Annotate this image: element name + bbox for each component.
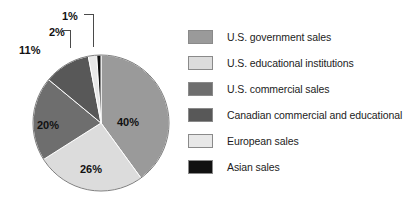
legend-item-asian-sales[interactable]: Asian sales	[188, 154, 414, 180]
callout-leader-elbow-european-sales	[62, 30, 71, 31]
legend-item-us-commercial-sales[interactable]: U.S. commercial sales	[188, 76, 414, 102]
callout-leader-elbow-asian-sales	[84, 14, 94, 15]
pie-chart-plot: 40% 26% 20% 11% 2% 1%	[0, 0, 200, 209]
slice-data-label-european-sales: 2%	[49, 26, 65, 38]
legend-label-european-sales: European sales	[227, 135, 299, 147]
legend-swatch-icon-us-commercial-sales	[188, 82, 213, 96]
slice-data-label-us-commercial-sales: 20%	[37, 119, 59, 131]
slice-data-label-us-educational-institutions: 26%	[80, 163, 102, 175]
slice-data-label-asian-sales: 1%	[62, 10, 78, 22]
legend: U.S. government sales U.S. educational i…	[188, 24, 414, 186]
legend-label-us-educational-institutions: U.S. educational institutions	[227, 57, 354, 69]
callout-leader-line-european-sales	[70, 30, 71, 48]
legend-label-asian-sales: Asian sales	[227, 161, 280, 173]
legend-swatch-icon-us-educational-institutions	[188, 56, 213, 70]
legend-label-canadian-commercial-and-educational: Canadian commercial and educational	[227, 109, 402, 121]
slice-data-label-canadian-commercial-and-educational: 11%	[19, 44, 40, 56]
callout-leader-line-asian-sales	[93, 14, 94, 47]
legend-label-us-commercial-sales: U.S. commercial sales	[227, 83, 329, 95]
legend-swatch-icon-canadian-commercial-and-educational	[188, 108, 213, 122]
legend-item-canadian-commercial-and-educational[interactable]: Canadian commercial and educational	[188, 102, 414, 128]
legend-swatch-icon-us-government-sales	[188, 30, 213, 44]
legend-item-us-educational-institutions[interactable]: U.S. educational institutions	[188, 50, 414, 76]
legend-item-european-sales[interactable]: European sales	[188, 128, 414, 154]
legend-item-us-government-sales[interactable]: U.S. government sales	[188, 24, 414, 50]
legend-label-us-government-sales: U.S. government sales	[227, 31, 331, 43]
pie-chart-svg	[0, 0, 200, 209]
slice-data-label-us-government-sales: 40%	[117, 116, 139, 128]
legend-swatch-icon-european-sales	[188, 134, 213, 148]
pie-chart-figure: 40% 26% 20% 11% 2% 1% U.S. government sa…	[0, 0, 414, 209]
legend-swatch-icon-asian-sales	[188, 160, 213, 174]
